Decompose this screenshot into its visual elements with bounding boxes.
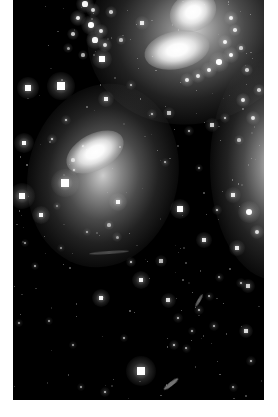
background-star xyxy=(201,338,202,339)
star-field-layer xyxy=(13,0,264,400)
star-glow xyxy=(194,305,204,315)
star-core xyxy=(80,386,82,388)
background-star xyxy=(185,262,186,263)
background-star xyxy=(111,37,112,38)
background-star xyxy=(69,164,70,165)
star-core xyxy=(173,344,176,347)
background-star xyxy=(167,338,168,339)
background-star xyxy=(254,126,255,127)
star-glow xyxy=(209,321,219,331)
background-star xyxy=(218,34,219,35)
background-star xyxy=(218,219,219,220)
background-star xyxy=(96,232,97,233)
background-star xyxy=(182,215,183,216)
background-star xyxy=(241,326,242,327)
star-glow xyxy=(17,77,39,99)
background-star xyxy=(239,206,240,207)
background-star xyxy=(240,11,241,12)
star-glow xyxy=(195,164,203,172)
background-star xyxy=(51,307,52,308)
background-star xyxy=(111,385,112,386)
star-glow xyxy=(135,16,149,30)
star-glow xyxy=(69,341,76,348)
background-star xyxy=(114,77,115,78)
star-core xyxy=(250,360,252,362)
background-star xyxy=(255,159,256,160)
star-core xyxy=(151,113,153,115)
background-star xyxy=(251,132,253,134)
star-glow xyxy=(173,313,183,323)
background-star xyxy=(26,164,27,165)
background-star xyxy=(21,215,22,216)
star-glow xyxy=(100,387,110,397)
star-core xyxy=(188,130,190,132)
background-star xyxy=(223,98,224,99)
background-star xyxy=(160,395,162,397)
star-glow xyxy=(14,133,33,152)
background-star xyxy=(93,54,94,55)
galaxy-image-plate xyxy=(13,0,264,400)
background-star xyxy=(28,196,29,197)
background-star xyxy=(22,241,23,242)
star-glow xyxy=(120,334,128,342)
star-core xyxy=(130,261,133,264)
background-star xyxy=(72,253,73,254)
background-star xyxy=(233,398,234,399)
background-star xyxy=(103,297,104,298)
star-core xyxy=(159,259,162,262)
background-star xyxy=(212,93,213,94)
star-glow xyxy=(92,289,110,307)
background-star xyxy=(181,310,182,311)
background-star xyxy=(57,31,58,32)
background-star xyxy=(91,18,93,20)
background-star xyxy=(94,110,95,111)
background-star xyxy=(127,10,128,11)
star-core xyxy=(39,213,44,218)
star-glow xyxy=(220,113,231,124)
background-star xyxy=(63,264,64,265)
background-star xyxy=(112,168,113,169)
background-star xyxy=(229,268,230,269)
background-star xyxy=(167,346,168,347)
star-core xyxy=(130,84,132,86)
background-star xyxy=(177,145,179,147)
background-star xyxy=(113,379,114,380)
star-glow xyxy=(32,206,50,224)
star-glow xyxy=(126,80,136,90)
star-core xyxy=(104,97,108,101)
star-glow xyxy=(205,118,218,131)
star-glow xyxy=(196,232,212,248)
star-glow xyxy=(57,244,64,251)
background-star xyxy=(204,122,205,123)
background-star xyxy=(86,106,87,107)
star-core xyxy=(177,317,179,319)
star-glow xyxy=(77,383,85,391)
background-star xyxy=(246,53,247,54)
background-star xyxy=(39,95,40,96)
star-glow xyxy=(132,271,150,289)
star-core xyxy=(61,179,68,186)
star-core xyxy=(60,247,62,249)
background-star xyxy=(45,253,46,254)
star-core xyxy=(244,329,248,333)
star-glow xyxy=(31,262,39,270)
star-core xyxy=(185,347,187,349)
background-star xyxy=(136,24,137,25)
star-glow xyxy=(161,158,170,167)
background-star xyxy=(102,336,103,337)
background-star xyxy=(180,248,181,249)
star-core xyxy=(19,193,26,200)
star-core xyxy=(51,138,54,141)
star-core xyxy=(24,242,26,244)
background-star xyxy=(122,35,124,37)
background-star xyxy=(159,262,160,263)
background-star xyxy=(123,123,125,125)
star-core xyxy=(116,200,121,205)
star-glow xyxy=(205,292,214,301)
star-core xyxy=(99,56,104,61)
star-core xyxy=(86,231,88,233)
star-glow xyxy=(229,240,245,256)
background-star xyxy=(140,98,141,99)
star-core xyxy=(232,386,234,388)
star-glow xyxy=(169,340,180,351)
